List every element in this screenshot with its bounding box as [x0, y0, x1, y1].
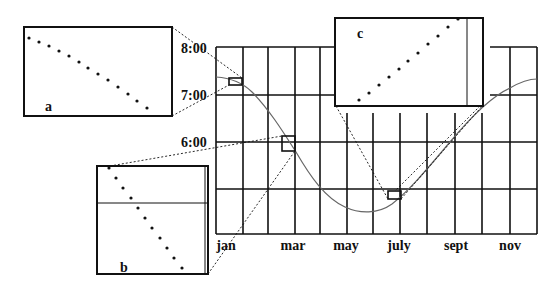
inset-b: b	[97, 166, 208, 275]
y-tick-label: 6:00	[181, 135, 207, 150]
inset-c-label: c	[357, 26, 363, 41]
y-tick-label: 8:00	[181, 41, 207, 56]
inset-a-label: a	[45, 99, 52, 114]
x-tick-label: sept	[444, 238, 468, 253]
y-tick-label: 7:00	[181, 88, 207, 103]
x-tick-label: nov	[499, 238, 521, 253]
x-tick-label: jan	[215, 238, 236, 253]
x-tick-label: july	[386, 238, 410, 253]
inset-a: a	[24, 27, 172, 116]
x-tick-label: may	[333, 238, 359, 253]
inset-c: c	[335, 17, 483, 106]
inset-b-label: b	[120, 260, 128, 275]
figure: a b c 8:00 7:00 6:00 jan mar may july se…	[0, 0, 556, 290]
zoom-region-b	[282, 136, 295, 151]
x-tick-label: mar	[281, 238, 306, 253]
